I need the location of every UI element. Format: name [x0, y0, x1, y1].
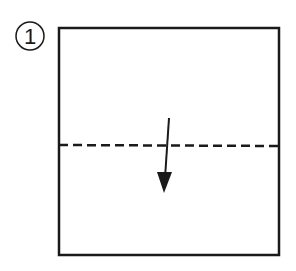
fold-down-arrow-icon [157, 118, 172, 193]
step-number: 1 [24, 24, 36, 49]
origami-step-diagram: 1 [0, 0, 296, 271]
paper-square [59, 28, 279, 255]
valley-fold-line [59, 145, 279, 146]
step-number-badge: 1 [16, 22, 44, 50]
